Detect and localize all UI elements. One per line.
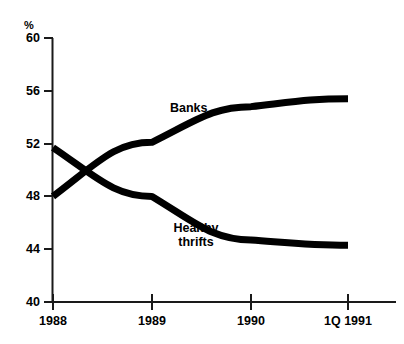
chart-container: % 60 56 52 48 44 40 1988 1989 1990 1Q 19… (0, 0, 404, 344)
x-tick-label-1988: 1988 (23, 315, 83, 328)
x-tick-label-1990: 1990 (221, 315, 281, 328)
y-axis-unit-label: % (24, 20, 34, 31)
y-tick-label-52: 52 (6, 138, 40, 151)
y-tick-label-48: 48 (6, 190, 40, 203)
x-tick-label-1989: 1989 (122, 315, 182, 328)
series-label-healthy-thrifts-line2: thrifts (178, 235, 213, 249)
series-label-healthy-thrifts-line1: Healthy (173, 221, 218, 235)
y-tick-label-56: 56 (6, 85, 40, 98)
x-tick-label-1q-1991: 1Q 1991 (310, 315, 386, 328)
y-tick-label-40: 40 (6, 296, 40, 309)
y-tick-label-60: 60 (6, 32, 40, 45)
chart-plot-area (0, 0, 404, 344)
series-label-banks: Banks (170, 101, 208, 115)
y-tick-label-44: 44 (6, 243, 40, 256)
series-label-healthy-thrifts: Healthy thrifts (160, 221, 232, 249)
